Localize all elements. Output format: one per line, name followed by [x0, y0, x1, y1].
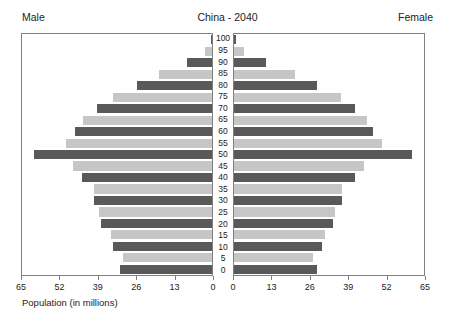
pyramid-row: [22, 252, 212, 263]
pyramid-bar: [187, 58, 212, 67]
age-tick-label: 65: [213, 114, 233, 126]
pyramid-bar: [234, 139, 382, 148]
pyramid-row: [234, 126, 424, 137]
pyramid-bar: [234, 184, 342, 193]
pyramid-row: [22, 206, 212, 217]
pyramid-row: [234, 264, 424, 275]
pyramid-row: [234, 195, 424, 206]
pyramid-bar: [234, 116, 367, 125]
pyramid-bar: [94, 184, 212, 193]
axis-tick: [175, 276, 176, 280]
axis-tick: [213, 276, 214, 280]
axis-tick-label: 0: [210, 282, 215, 292]
axis-tick: [21, 276, 22, 280]
pyramid-row: [22, 114, 212, 125]
pyramid-row: [22, 80, 212, 91]
axis-tick-label: 39: [93, 282, 103, 292]
age-tick-label: 80: [213, 79, 233, 91]
pyramid-row: [234, 34, 424, 45]
pyramid-bar: [234, 207, 335, 216]
axis-tick-label: 39: [343, 282, 353, 292]
age-tick-label: 60: [213, 125, 233, 137]
female-bar-rows: [234, 34, 424, 275]
chart-title: China - 2040: [0, 11, 455, 23]
pyramid-row: [22, 126, 212, 137]
axis-tick-label: 65: [420, 282, 430, 292]
pyramid-row: [234, 241, 424, 252]
pyramid-bar: [66, 139, 212, 148]
age-tick-label: 45: [213, 160, 233, 172]
age-tick-label: 55: [213, 137, 233, 149]
pyramid-row: [234, 92, 424, 103]
pyramid-row: [22, 46, 212, 57]
pyramid-row: [22, 103, 212, 114]
pyramid-row: [234, 80, 424, 91]
age-tick-label: 5: [213, 253, 233, 265]
pyramid-bar: [94, 196, 212, 205]
axis-tick: [271, 276, 272, 280]
age-tick-label: 85: [213, 68, 233, 80]
pyramid-bar: [101, 219, 212, 228]
pyramid-bar: [234, 93, 341, 102]
pyramid-row: [22, 218, 212, 229]
pyramid-bar: [34, 150, 212, 159]
pyramid-bar: [234, 173, 355, 182]
age-tick-label: 0: [213, 264, 233, 276]
faint-top-artifact: [78, 0, 318, 8]
pyramid-row: [234, 229, 424, 240]
pyramid-row: [22, 160, 212, 171]
pyramid-bar: [234, 161, 364, 170]
pyramid-bar: [73, 161, 212, 170]
pyramid-bar: [113, 93, 212, 102]
age-tick-label: 20: [213, 218, 233, 230]
pyramid-bar: [234, 127, 373, 136]
pyramid-bar: [159, 70, 212, 79]
pyramid-row: [22, 172, 212, 183]
pyramid-bar: [75, 127, 212, 136]
axis-tick-label: 26: [131, 282, 141, 292]
pyramid-bar: [234, 81, 317, 90]
pyramid-row: [234, 46, 424, 57]
pyramid-row: [234, 114, 424, 125]
axis-tick: [136, 276, 137, 280]
axis-tick: [98, 276, 99, 280]
male-x-axis: 65523926130: [21, 276, 213, 296]
male-bar-rows: [22, 34, 212, 275]
pyramid-row: [22, 34, 212, 45]
pyramid-bar: [137, 81, 212, 90]
pyramid-bar: [234, 196, 342, 205]
female-side-label: Female: [398, 11, 433, 23]
axis-tick-label: 13: [266, 282, 276, 292]
pyramid-row: [234, 69, 424, 80]
pyramid-bar: [113, 242, 212, 251]
pyramid-row: [234, 103, 424, 114]
age-tick-label: 90: [213, 56, 233, 68]
age-tick-label: 35: [213, 183, 233, 195]
pyramid-bar: [234, 70, 295, 79]
population-pyramid-chart: Male China - 2040 Female 051015202530354…: [0, 0, 455, 321]
pyramid-row: [22, 195, 212, 206]
axis-tick-label: 26: [305, 282, 315, 292]
pyramid-row: [22, 241, 212, 252]
male-plot-panel: [21, 33, 213, 276]
pyramid-bar: [111, 230, 212, 239]
pyramid-row: [22, 149, 212, 160]
pyramid-bar: [123, 253, 212, 262]
x-axis-title: Population (in millions): [22, 297, 118, 308]
female-x-axis: 01326395265: [233, 276, 425, 296]
axis-tick: [59, 276, 60, 280]
axis-tick: [425, 276, 426, 280]
pyramid-bar: [120, 265, 212, 274]
female-plot-panel: [233, 33, 425, 276]
pyramid-row: [234, 172, 424, 183]
pyramid-bar: [83, 116, 212, 125]
axis-tick-label: 52: [54, 282, 64, 292]
pyramid-bar: [234, 35, 236, 44]
age-tick-label: 10: [213, 241, 233, 253]
axis-tick-label: 0: [230, 282, 235, 292]
age-tick-label: 100: [213, 33, 233, 45]
pyramid-row: [22, 229, 212, 240]
pyramid-row: [22, 137, 212, 148]
pyramid-row: [22, 57, 212, 68]
pyramid-bar: [97, 104, 212, 113]
